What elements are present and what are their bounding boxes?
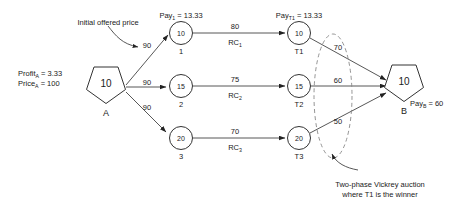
seller-price-value: = 100 <box>39 79 60 88</box>
seller-profit-label: ProfitA = 3.33 <box>18 69 62 79</box>
rc-label-1: RC1 <box>228 38 242 48</box>
terminal-node-T1-value: 10 <box>295 29 303 38</box>
terminal-node-T3-name: T3 <box>295 152 304 161</box>
intermediate-node-3-value: 20 <box>177 134 185 143</box>
seller-profit-value: = 3.33 <box>39 69 62 78</box>
terminal-node-T3-value: 20 <box>295 134 303 143</box>
buyer-pay-value: = 60 <box>426 99 443 108</box>
offer-price-1: 90 <box>143 41 151 50</box>
bottom-note-pointer <box>332 154 358 170</box>
seller-price-subscript: A <box>35 83 38 89</box>
rc-label-1-subscript: 1 <box>239 42 242 48</box>
pay-1-label: Pay1 = 13.33 <box>159 11 202 21</box>
rc-label-2-subscript: 2 <box>239 95 242 101</box>
offer-price-2: 90 <box>143 78 151 87</box>
bid-price-T2: 60 <box>334 76 342 85</box>
buyer-node-value: 10 <box>398 77 409 86</box>
pay-T1-text: Pay <box>276 11 289 20</box>
intermediate-node-2-name: 2 <box>179 100 183 109</box>
rc-price-1: 80 <box>231 22 239 31</box>
initial-price-pointer <box>108 26 138 47</box>
rc-label-3: RC3 <box>228 143 242 153</box>
buyer-pay-label: PayB = 60 <box>410 99 443 109</box>
intermediate-node-1-name: 1 <box>179 47 183 56</box>
bottom-note-line-2: where T1 is the winner <box>315 190 445 200</box>
terminal-node-T2-value: 15 <box>295 82 303 91</box>
rc-label-3-text: RC <box>228 143 239 152</box>
buyer-node-name: B <box>401 107 407 116</box>
auction-region-ellipse <box>314 34 352 158</box>
offer-price-3: 90 <box>143 103 151 112</box>
rc-label-2: RC2 <box>228 91 242 101</box>
bid-price-T1: 70 <box>334 43 342 52</box>
diagram-canvas: Initial offered price ProfitA = 3.33 Pri… <box>0 0 461 208</box>
seller-price-text: Price <box>18 79 35 88</box>
rc-edges-group <box>193 33 285 138</box>
pay-T1-label: PayT1 = 13.33 <box>276 11 322 21</box>
rc-price-2: 75 <box>231 75 239 84</box>
intermediate-node-3-name: 3 <box>179 152 183 161</box>
initial-offered-price-label: Initial offered price <box>77 18 138 27</box>
rc-label-2-text: RC <box>228 91 239 100</box>
pay-1-text: Pay <box>159 11 172 20</box>
bottom-note: Two-phase Vickrey auction where T1 is th… <box>315 180 445 200</box>
pay-T1-value: = 13.33 <box>295 11 322 20</box>
terminal-node-T1-name: T1 <box>295 47 304 56</box>
seller-node-name: A <box>103 109 109 118</box>
seller-profit-subscript: A <box>36 73 39 79</box>
buyer-pay-subscript: B <box>423 103 426 109</box>
rc-label-1-text: RC <box>228 38 239 47</box>
bid-price-T3: 50 <box>334 117 342 126</box>
seller-price-label: PriceA = 100 <box>18 79 60 89</box>
rc-price-3: 70 <box>231 127 239 136</box>
diagram-graphics <box>0 0 461 208</box>
seller-profit-text: Profit <box>18 69 36 78</box>
intermediate-node-2-value: 15 <box>177 82 185 91</box>
pay-T1-subscript: T1 <box>289 15 295 21</box>
intermediate-node-1-value: 10 <box>177 29 185 38</box>
terminal-node-T2-name: T2 <box>295 100 304 109</box>
bottom-note-line-1: Two-phase Vickrey auction <box>315 180 445 190</box>
seller-node-value: 10 <box>100 79 111 88</box>
bid-edges-group <box>310 38 386 133</box>
rc-label-3-subscript: 3 <box>239 147 242 153</box>
pay-1-subscript: 1 <box>172 15 175 21</box>
pay-1-value: = 13.33 <box>175 11 202 20</box>
buyer-pay-text: Pay <box>410 99 423 108</box>
